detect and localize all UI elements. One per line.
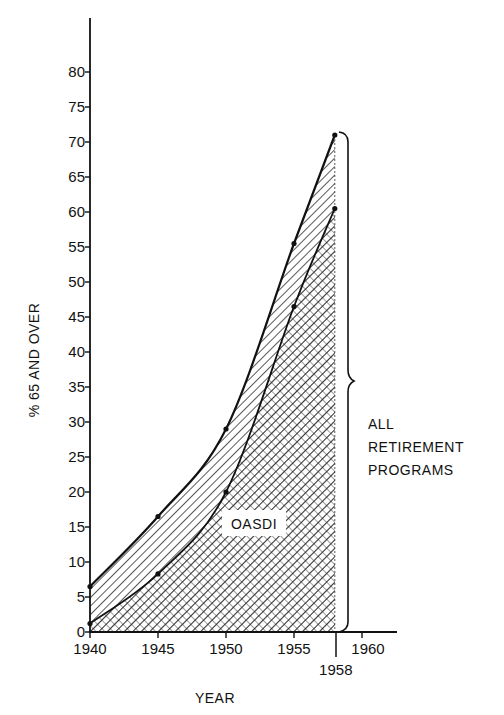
oasdi-label: OASDI [231, 516, 277, 532]
y-tick-label: 30 [68, 413, 85, 430]
y-tick-label: 25 [68, 448, 85, 465]
x-tick-label: 1955 [277, 640, 310, 657]
data-point [155, 571, 160, 576]
y-tick-label: 55 [68, 238, 85, 255]
data-point [223, 426, 228, 431]
y-tick-label: 70 [68, 133, 85, 150]
y-tick-label: 35 [68, 378, 85, 395]
y-tick-label: 10 [68, 553, 85, 570]
y-tick-label: 20 [68, 483, 85, 500]
y-ticks: 05101520253035404550556065707580 [68, 63, 90, 640]
bracket-label-line3: PROGRAMS [368, 462, 454, 478]
y-tick-label: 65 [68, 168, 85, 185]
data-point [332, 132, 337, 137]
y-tick-label: 75 [68, 98, 85, 115]
data-point [155, 514, 160, 519]
y-tick-label: 0 [77, 623, 85, 640]
y-tick-label: 80 [68, 63, 85, 80]
chart-areas [90, 135, 335, 632]
x-tick-label: 1940 [73, 640, 106, 657]
x-tick-label: 1960 [351, 640, 384, 657]
data-point [223, 489, 228, 494]
data-point [332, 206, 337, 211]
y-axis-title: % 65 AND OVER [26, 303, 42, 418]
data-point [291, 304, 296, 309]
y-tick-label: 60 [68, 203, 85, 220]
x-tick-label: 1958 [319, 661, 352, 678]
right-brace [339, 132, 354, 632]
retirement-coverage-chart: OASDI 05101520253035404550556065707580 1… [0, 0, 504, 715]
bracket-label-line1: ALL [368, 416, 394, 432]
bracket-label-line2: RETIREMENT [368, 439, 464, 455]
data-point [291, 241, 296, 246]
y-tick-label: 15 [68, 518, 85, 535]
y-tick-label: 40 [68, 343, 85, 360]
x-ticks: 194019451950195519581960 [73, 632, 384, 678]
x-tick-label: 1945 [141, 640, 174, 657]
y-tick-label: 5 [77, 588, 85, 605]
y-tick-label: 50 [68, 273, 85, 290]
y-tick-label: 45 [68, 308, 85, 325]
x-axis-title: YEAR [195, 690, 235, 706]
x-tick-label: 1950 [209, 640, 242, 657]
